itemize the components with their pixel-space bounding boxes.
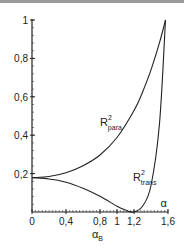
- x-tick-label: 0: [29, 216, 35, 227]
- brewster-subscript: B: [98, 235, 103, 242]
- y-tick-label: 0,2: [14, 169, 28, 180]
- label-main: R: [100, 116, 108, 128]
- label-sup: 2: [141, 169, 145, 176]
- x-tick-label: 1,6: [161, 216, 175, 227]
- y-tick-label: 1: [22, 15, 28, 26]
- x-tick-label: 0,8: [93, 216, 107, 227]
- x-axis-label: α: [161, 197, 168, 209]
- curve-r-para: [32, 20, 166, 178]
- label-r-para: R2para: [100, 114, 122, 132]
- y-tick-label: 0,4: [14, 130, 28, 141]
- x-tick-label: 0,4: [59, 216, 73, 227]
- label-sup: 2: [108, 114, 112, 121]
- brewster-angle-label: αB: [92, 228, 103, 242]
- reflectance-chart: 0,20,40,60,8100,40,811,21,6 ααBR2paraR2t…: [0, 0, 188, 252]
- label-main: R: [133, 171, 141, 183]
- label-sub: trans: [141, 179, 157, 186]
- y-tick-label: 0,6: [14, 92, 28, 103]
- x-tick-label: 1: [114, 216, 120, 227]
- y-tick-label: 0,8: [14, 53, 28, 64]
- x-tick-label: 1,2: [127, 216, 141, 227]
- label-sub: para: [108, 124, 122, 132]
- axes: 0,20,40,60,8100,40,811,21,6: [14, 15, 175, 227]
